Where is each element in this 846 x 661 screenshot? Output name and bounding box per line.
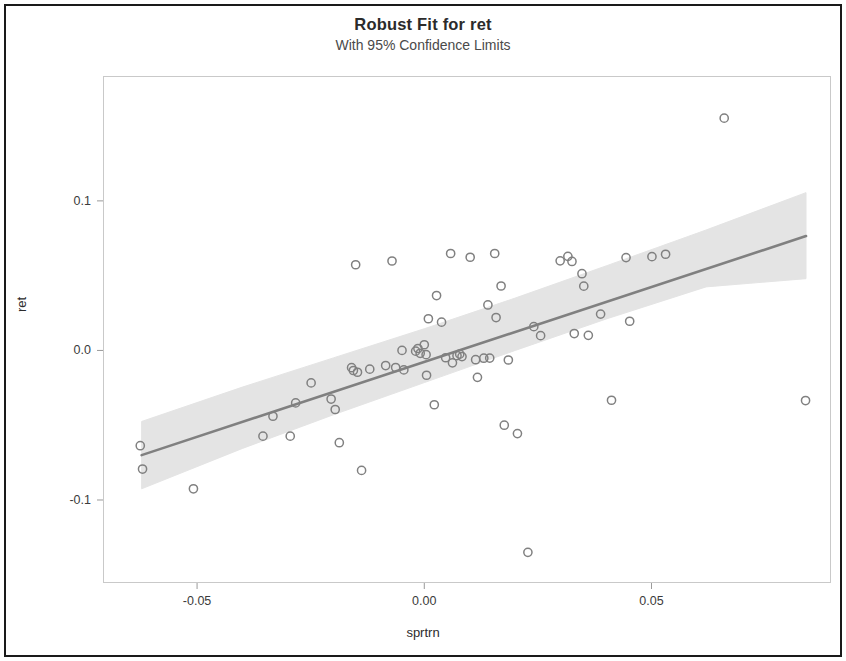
chart-subtitle: With 95% Confidence Limits	[0, 36, 846, 55]
chart-header: Robust Fit for ret With 95% Confidence L…	[0, 14, 846, 55]
y-tick-label: -0.1	[43, 493, 91, 507]
y-tick-label: 0.0	[43, 343, 91, 357]
x-tick-label: 0.05	[639, 594, 663, 608]
x-axis-title: sprtrn	[0, 625, 846, 640]
plot-area	[103, 76, 831, 583]
x-tick-label: -0.05	[183, 594, 212, 608]
x-tick-label: 0.00	[412, 594, 436, 608]
y-axis-title: ret	[14, 297, 29, 312]
screenshot-root: Robust Fit for ret With 95% Confidence L…	[0, 0, 846, 661]
y-tick-label: 0.1	[43, 194, 91, 208]
page-title: Robust Fit for ret	[0, 14, 846, 34]
